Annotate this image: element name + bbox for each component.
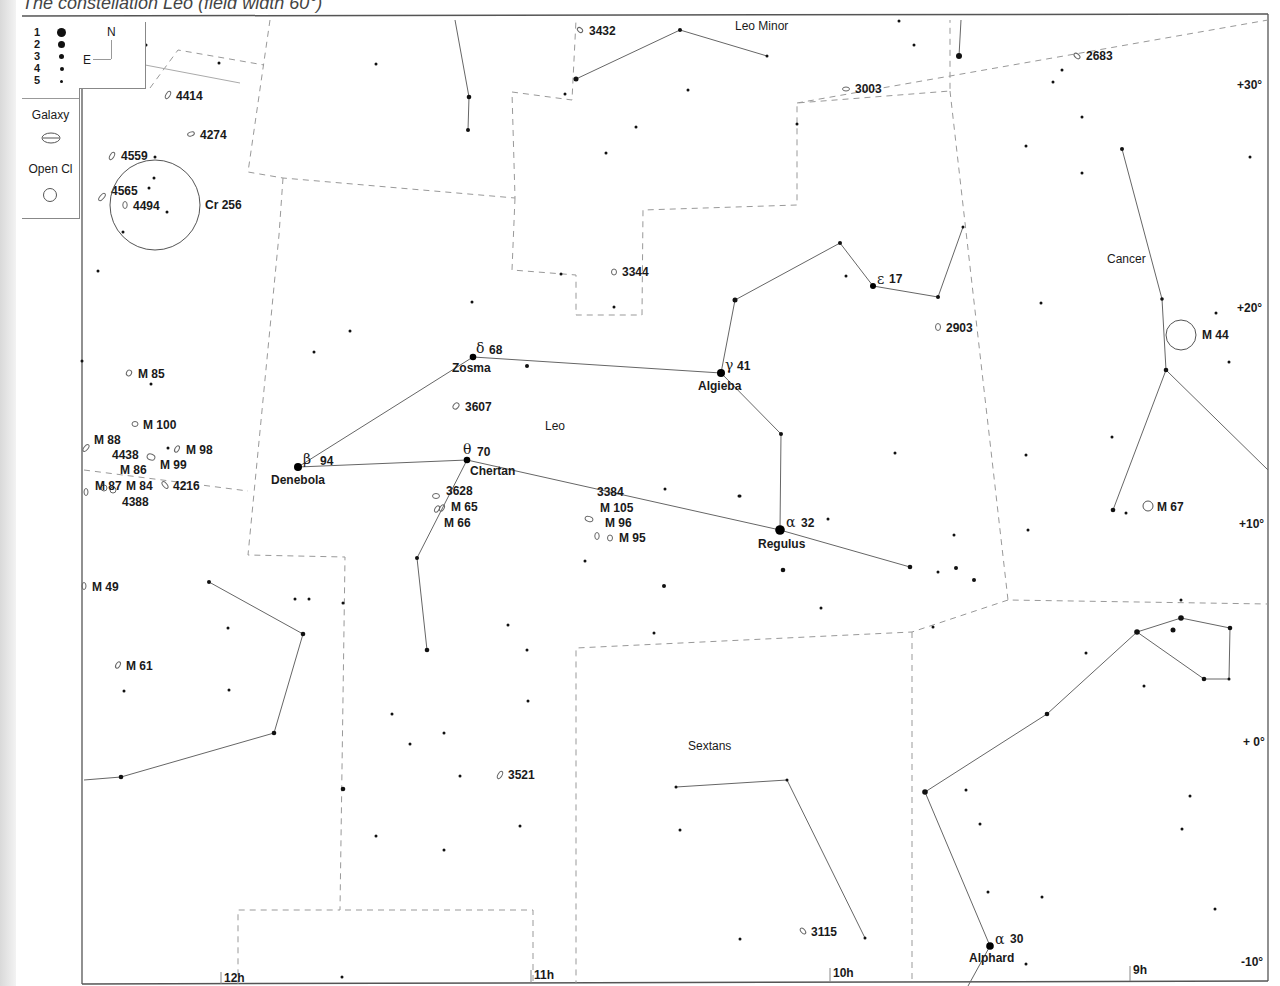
svg-text:4565: 4565 — [111, 184, 138, 198]
galaxy-icons — [82, 27, 1081, 935]
svg-text:32: 32 — [801, 516, 815, 530]
star-mag3-icon — [59, 54, 64, 59]
constellation-names: Leo Leo Minor Cancer Sextans — [545, 19, 1146, 753]
svg-text:4216: 4216 — [173, 479, 200, 493]
dec-label-0: + 0° — [1243, 735, 1265, 749]
dec-label-20: +20° — [1237, 301, 1262, 315]
compass-east-line — [93, 59, 111, 60]
ra-label-11h: 11h — [534, 968, 554, 982]
svg-text:2903: 2903 — [946, 321, 973, 335]
svg-text:M 99: M 99 — [160, 458, 187, 472]
svg-text:M 65: M 65 — [451, 500, 478, 514]
svg-text:M 67: M 67 — [1157, 500, 1184, 514]
svg-text:3344: 3344 — [622, 265, 649, 279]
deep-sky-labels: 3432 3003 2683 4414 4274 4559 4565 4494 … — [92, 24, 1113, 939]
svg-text:3003: 3003 — [855, 82, 882, 96]
svg-text:M 88: M 88 — [94, 433, 121, 447]
svg-text:4274: 4274 — [200, 128, 227, 142]
legend-divider — [22, 98, 79, 99]
dec-label-10: +10° — [1239, 517, 1264, 531]
constellation-leo-minor: Leo Minor — [735, 19, 788, 33]
svg-text:17: 17 — [889, 272, 903, 286]
svg-text:3115: 3115 — [811, 925, 837, 939]
star-mag5-icon — [60, 80, 63, 83]
background-stars — [81, 20, 1252, 979]
star-labels: δ68 Zosma γ41 Algieba ε17 β94 Denebola θ… — [271, 271, 1024, 965]
svg-text:4438: 4438 — [112, 448, 139, 462]
svg-text:α: α — [995, 931, 1005, 947]
constellation-cancer: Cancer — [1107, 252, 1146, 266]
compass-north: N — [107, 25, 116, 39]
svg-text:3432: 3432 — [589, 24, 616, 38]
svg-text:M 100: M 100 — [143, 418, 177, 432]
svg-text:Alphard: Alphard — [969, 951, 1014, 965]
open-cluster-legend-icon — [42, 187, 58, 203]
constellation-lines — [82, 20, 1268, 986]
constellation-sextans: Sextans — [688, 739, 731, 753]
open-cluster-labels: Cr 256 M 44 M 67 — [205, 198, 1229, 514]
compass-north-line — [111, 40, 112, 59]
svg-text:M 95: M 95 — [619, 531, 646, 545]
legend-galaxy-label: Galaxy — [22, 108, 79, 122]
star-chart: δ68 Zosma γ41 Algieba ε17 β94 Denebola θ… — [0, 0, 1280, 986]
ra-label-12h: 12h — [224, 971, 245, 985]
svg-text:α: α — [786, 514, 796, 530]
svg-text:3628: 3628 — [446, 484, 473, 498]
svg-text:2683: 2683 — [1086, 49, 1113, 63]
svg-text:δ: δ — [476, 340, 484, 356]
svg-text:94: 94 — [320, 454, 334, 468]
svg-text:M 84: M 84 — [126, 479, 153, 493]
svg-text:β: β — [303, 451, 311, 467]
svg-text:3607: 3607 — [465, 400, 492, 414]
svg-text:γ: γ — [725, 357, 733, 373]
star-mag1-icon — [57, 28, 66, 37]
svg-text:68: 68 — [489, 343, 503, 357]
svg-text:41: 41 — [737, 359, 751, 373]
svg-text:M 85: M 85 — [138, 367, 165, 381]
svg-text:Algieba: Algieba — [698, 379, 742, 393]
legend-open-cluster-label: Open Cl — [22, 162, 79, 176]
chart-frame — [22, 14, 1268, 984]
svg-text:M 44: M 44 — [1202, 328, 1229, 342]
star-mag2-icon — [58, 41, 65, 48]
svg-text:M 49: M 49 — [92, 580, 119, 594]
open-cluster-icons — [110, 160, 1196, 511]
dec-label-30: +30° — [1237, 78, 1262, 92]
dec-label-minus10: -10° — [1241, 955, 1263, 969]
svg-text:70: 70 — [477, 445, 491, 459]
svg-text:Denebola: Denebola — [271, 473, 325, 487]
star-mag4-icon — [60, 67, 64, 71]
svg-text:M 61: M 61 — [126, 659, 153, 673]
ra-label-9h: 9h — [1133, 963, 1147, 977]
galaxy-legend-icon — [41, 132, 61, 144]
svg-text:3384: 3384 — [597, 485, 624, 499]
svg-text:M 86: M 86 — [120, 463, 147, 477]
svg-text:Regulus: Regulus — [758, 537, 806, 551]
magnitude-legend: 1 2 3 4 5 Galaxy Open Cl — [22, 22, 80, 219]
svg-text:M 66: M 66 — [444, 516, 471, 530]
svg-text:3521: 3521 — [508, 768, 535, 782]
svg-text:4494: 4494 — [133, 199, 160, 213]
svg-text:30: 30 — [1010, 932, 1024, 946]
svg-text:θ: θ — [463, 441, 471, 457]
svg-text:M 87: M 87 — [95, 479, 122, 493]
svg-text:M 98: M 98 — [186, 443, 213, 457]
constellation-leo: Leo — [545, 419, 565, 433]
svg-text:M 96: M 96 — [605, 516, 632, 530]
svg-text:Zosma: Zosma — [452, 361, 491, 375]
svg-text:Chertan: Chertan — [470, 464, 515, 478]
constellation-boundaries — [84, 20, 1268, 984]
ra-label-10h: 10h — [833, 966, 854, 980]
compass-east: E — [83, 53, 91, 67]
svg-text:4414: 4414 — [176, 89, 203, 103]
compass: N E — [79, 22, 146, 89]
svg-text:ε: ε — [877, 271, 884, 287]
svg-text:4388: 4388 — [122, 495, 149, 509]
svg-text:Cr 256: Cr 256 — [205, 198, 242, 212]
bright-stars — [294, 283, 994, 950]
svg-text:M 105: M 105 — [600, 501, 634, 515]
dec-axis: +30° +20° +10° + 0° -10° — [1237, 78, 1265, 969]
